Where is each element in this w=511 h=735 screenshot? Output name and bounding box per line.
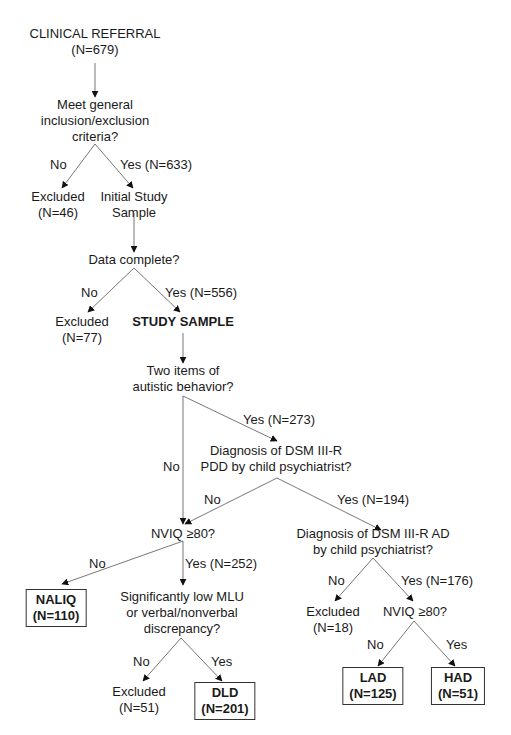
node-excluded-51: Excluded (N=51)	[112, 684, 165, 716]
node-inclusion-criteria: Meet general inclusion/exclusion criteri…	[41, 97, 149, 145]
node-count: (N=201)	[201, 701, 248, 717]
node-text: Diagnosis of DSM III-R	[201, 443, 352, 459]
edge-label-two-items-no: No	[163, 459, 180, 475]
node-nviq-80-a: NVIQ ≥80?	[151, 526, 215, 542]
node-initial-study-sample: Initial Study Sample	[100, 189, 167, 221]
node-text: Sample	[100, 205, 167, 221]
node-text: Significantly low MLU	[120, 589, 244, 605]
edge-label-nviq1-yes: Yes (N=252)	[185, 556, 257, 572]
node-two-items-autistic: Two items of autistic behavior?	[132, 363, 233, 395]
node-text: CLINICAL REFERRAL	[30, 26, 161, 42]
node-text: or verbal/nonverbal	[120, 605, 244, 621]
node-lad: LAD (N=125)	[342, 667, 403, 705]
node-text: DLD	[201, 685, 248, 701]
node-count: (N=125)	[349, 686, 396, 702]
node-text: HAD	[438, 670, 478, 686]
node-nviq-80-b: NVIQ ≥80?	[383, 604, 447, 620]
edge-label-mlu-yes: Yes	[211, 654, 232, 670]
node-text: Excluded	[55, 314, 108, 330]
node-text: Diagnosis of DSM III-R AD	[296, 526, 449, 542]
node-text: Excluded	[112, 684, 165, 700]
node-excluded-46: Excluded (N=46)	[31, 189, 84, 221]
node-text: NVIQ ≥80?	[151, 526, 215, 542]
node-clinical-referral: CLINICAL REFERRAL (N=679)	[30, 26, 161, 58]
node-text: NVIQ ≥80?	[383, 604, 447, 620]
node-text: autistic behavior?	[132, 379, 233, 395]
node-text: by child psychiatrist?	[296, 542, 449, 558]
node-excluded-77: Excluded (N=77)	[55, 314, 108, 346]
node-count: (N=77)	[55, 330, 108, 346]
flowchart-canvas: CLINICAL REFERRAL (N=679) Meet general i…	[0, 0, 511, 735]
node-ad-diagnosis: Diagnosis of DSM III-R AD by child psych…	[296, 526, 449, 558]
node-text: Initial Study	[100, 189, 167, 205]
edge-label-two-items-yes: Yes (N=273)	[243, 412, 315, 428]
edge-label-ad-yes: Yes (N=176)	[401, 573, 473, 589]
node-count: (N=679)	[30, 42, 161, 58]
node-count: (N=18)	[306, 620, 359, 636]
node-text: discrepancy?	[120, 621, 244, 637]
node-text: NALIQ	[33, 592, 80, 608]
node-text: inclusion/exclusion	[41, 113, 149, 129]
node-data-complete: Data complete?	[88, 252, 179, 268]
node-text: PDD by child psychiatrist?	[201, 459, 352, 475]
node-text: Excluded	[31, 189, 84, 205]
node-text: Data complete?	[88, 252, 179, 268]
node-count: (N=51)	[438, 686, 478, 702]
node-text: LAD	[349, 670, 396, 686]
edge-label-nviq2-yes: Yes	[446, 637, 467, 653]
node-naliq: NALIQ (N=110)	[26, 589, 87, 627]
edge-label-criteria-yes: Yes (N=633)	[120, 157, 192, 173]
node-text: Two items of	[132, 363, 233, 379]
node-study-sample: STUDY SAMPLE	[132, 314, 234, 330]
node-count: (N=46)	[31, 205, 84, 221]
node-had: HAD (N=51)	[431, 667, 485, 705]
edge-label-data-yes: Yes (N=556)	[165, 285, 237, 301]
node-excluded-18: Excluded (N=18)	[306, 604, 359, 636]
edge-label-nviq1-no: No	[89, 556, 106, 572]
edge-label-pdd-yes: Yes (N=194)	[337, 492, 409, 508]
edge-label-nviq2-no: No	[367, 637, 384, 653]
edge-label-criteria-no: No	[50, 157, 67, 173]
node-text: STUDY SAMPLE	[132, 314, 234, 330]
edge-label-mlu-no: No	[133, 654, 150, 670]
node-count: (N=51)	[112, 700, 165, 716]
node-text: Meet general	[41, 97, 149, 113]
edge-label-data-no: No	[81, 285, 98, 301]
edge-label-ad-no: No	[328, 573, 345, 589]
node-pdd-diagnosis: Diagnosis of DSM III-R PDD by child psyc…	[201, 443, 352, 475]
node-text: criteria?	[41, 129, 149, 145]
node-count: (N=110)	[33, 608, 80, 624]
node-text: Excluded	[306, 604, 359, 620]
edge-label-pdd-no: No	[204, 492, 221, 508]
node-mlu-discrepancy: Significantly low MLU or verbal/nonverba…	[120, 589, 244, 637]
node-dld: DLD (N=201)	[194, 682, 255, 720]
